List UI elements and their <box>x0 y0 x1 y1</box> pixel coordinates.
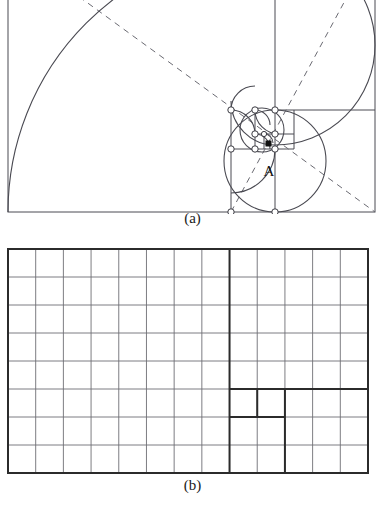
vertex-marker <box>272 131 278 137</box>
caption-panel-b: (b) <box>0 477 385 494</box>
spiral-arc-2 <box>275 0 375 45</box>
vertex-marker <box>252 146 258 152</box>
vertex-marker <box>261 131 266 136</box>
spiral-arc-5 <box>231 86 255 110</box>
panel-a: A <box>8 0 375 215</box>
figure-container: A (a) (b) <box>0 0 385 513</box>
spiral-pole-marker <box>266 141 272 147</box>
panel-a-diagonals <box>8 0 375 212</box>
vertex-marker <box>272 107 278 113</box>
spiral-arc-3 <box>275 45 375 145</box>
panel-b <box>8 249 368 473</box>
golden-rectangle <box>8 0 375 212</box>
point-label-a: A <box>264 163 275 179</box>
spiral-arc-1 <box>8 0 275 212</box>
vertex-marker <box>252 131 258 137</box>
panel-a-spiral <box>8 0 375 212</box>
vertex-marker <box>228 146 234 152</box>
inscribed-circle-small <box>240 108 284 152</box>
caption-panel-a: (a) <box>0 210 385 227</box>
panel-b-thin-grid <box>8 249 368 473</box>
panel-a-square-lines <box>8 0 375 212</box>
diagonal-secondary <box>231 0 375 212</box>
diagonal-primary <box>8 0 375 212</box>
vertex-marker <box>272 146 278 152</box>
vertex-marker <box>252 107 258 113</box>
vertex-marker <box>228 107 234 113</box>
figure-svg: A <box>0 0 385 513</box>
